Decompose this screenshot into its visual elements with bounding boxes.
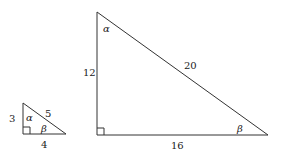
large-hypotenuse-label: 20 xyxy=(184,60,197,71)
small-angle-beta-label: β xyxy=(40,123,47,134)
large-angle-alpha-label: α xyxy=(103,23,110,34)
small-hypotenuse-label: 5 xyxy=(45,108,51,119)
small-side-vertical-label: 3 xyxy=(9,113,15,124)
similar-triangles-diagram: 3 4 5 α β 12 16 20 α β xyxy=(0,0,282,157)
large-right-angle-marker xyxy=(97,128,104,135)
large-triangle-outline xyxy=(97,12,268,135)
small-right-angle-marker xyxy=(23,127,30,134)
large-triangle: 12 16 20 α β xyxy=(83,12,268,151)
small-side-horizontal-label: 4 xyxy=(41,139,47,150)
large-side-vertical-label: 12 xyxy=(83,67,96,78)
small-triangle: 3 4 5 α β xyxy=(9,103,66,150)
large-side-horizontal-label: 16 xyxy=(171,140,184,151)
small-angle-alpha-label: α xyxy=(26,112,33,123)
large-angle-beta-label: β xyxy=(236,123,243,134)
